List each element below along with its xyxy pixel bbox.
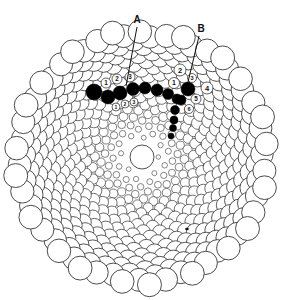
packed-circle bbox=[157, 124, 164, 131]
packed-circle bbox=[108, 144, 115, 151]
packed-circle bbox=[14, 93, 38, 117]
packed-circle bbox=[163, 180, 171, 188]
packed-circle bbox=[30, 71, 53, 94]
packed-circle bbox=[169, 158, 176, 165]
packed-circle bbox=[137, 273, 161, 297]
packed-circle bbox=[4, 164, 28, 188]
packed-circle bbox=[141, 135, 146, 140]
packed-circle bbox=[133, 176, 138, 181]
packed-circle bbox=[217, 236, 241, 260]
packed-circle bbox=[165, 148, 171, 154]
stray-mark bbox=[185, 228, 189, 230]
packed-circle bbox=[105, 162, 112, 169]
label-text: B bbox=[197, 23, 204, 34]
numbered-circle: 3 bbox=[125, 72, 135, 82]
packed-circle bbox=[105, 180, 114, 189]
packed-circle bbox=[152, 116, 160, 124]
packed-circle bbox=[123, 176, 129, 182]
packed-circle bbox=[180, 261, 204, 285]
packed-circle bbox=[160, 133, 166, 139]
packed-circle bbox=[114, 180, 121, 187]
numbered-circle: 5 bbox=[191, 94, 201, 104]
packed-circle bbox=[99, 127, 108, 136]
packed-circle bbox=[137, 184, 143, 190]
numbered-circle: 6 bbox=[185, 105, 194, 114]
packed-circle bbox=[150, 131, 156, 137]
packed-circle bbox=[110, 270, 134, 294]
packed-circle bbox=[126, 184, 133, 191]
packed-circle bbox=[135, 126, 141, 132]
packed-circle bbox=[154, 181, 161, 188]
packed-circle bbox=[110, 132, 117, 139]
highlighted-circle bbox=[170, 116, 178, 124]
highlighted-circle bbox=[171, 106, 180, 115]
circle-number: 1 bbox=[115, 104, 118, 110]
numbered-circle: 3 bbox=[130, 98, 138, 106]
circle-number: 1 bbox=[104, 79, 108, 86]
packed-circle bbox=[153, 189, 161, 197]
packed-circle bbox=[229, 67, 253, 91]
circle-number: 5 bbox=[194, 95, 198, 102]
circle-number: 3 bbox=[128, 73, 132, 80]
packed-circle bbox=[159, 112, 168, 121]
highlighted-circle bbox=[176, 95, 186, 105]
highlighted-circle bbox=[113, 86, 127, 100]
highlighted-circle bbox=[181, 82, 195, 96]
highlighted-circle bbox=[163, 89, 174, 100]
highlighted-circle bbox=[151, 84, 163, 96]
packed-circle bbox=[255, 132, 278, 155]
packed-circle bbox=[126, 167, 131, 172]
packed-circle bbox=[101, 21, 125, 45]
packed-circle bbox=[211, 46, 235, 70]
numbered-circle: 2 bbox=[121, 100, 129, 108]
packed-circle bbox=[61, 40, 85, 64]
packed-circle bbox=[68, 256, 92, 280]
packed-circle bbox=[138, 117, 146, 125]
numbered-circle: 2 bbox=[112, 74, 122, 84]
phyllotaxis-diagram: 123123123456 AB bbox=[0, 0, 285, 300]
packed-circle bbox=[171, 177, 179, 185]
packed-circle bbox=[119, 130, 126, 137]
packed-circle bbox=[113, 171, 120, 178]
packed-circle bbox=[144, 188, 151, 195]
circle-number: 3 bbox=[190, 75, 193, 81]
circle-number: 3 bbox=[133, 99, 136, 105]
highlighted-circle bbox=[127, 83, 140, 96]
packed-circle bbox=[116, 141, 122, 147]
packed-circle bbox=[19, 205, 43, 229]
highlighted-circle bbox=[139, 82, 151, 94]
circle-number: 6 bbox=[187, 106, 190, 112]
numbered-circle: 1 bbox=[169, 78, 180, 89]
highlighted-circle bbox=[86, 84, 102, 100]
packed-circle bbox=[156, 155, 161, 160]
packed-circle bbox=[174, 150, 181, 157]
packed-circle bbox=[118, 188, 126, 196]
numbered-circle: 1 bbox=[101, 78, 111, 88]
packed-circle bbox=[175, 163, 183, 171]
packed-circle bbox=[116, 164, 122, 170]
circle-number: 2 bbox=[124, 101, 127, 107]
packed-circle bbox=[251, 105, 275, 129]
packed-circle bbox=[168, 169, 175, 176]
packed-circle bbox=[104, 171, 112, 179]
packed-circle bbox=[253, 176, 277, 200]
packed-circle bbox=[162, 162, 168, 168]
label-text: A bbox=[133, 14, 140, 25]
packed-circle bbox=[236, 217, 260, 241]
packed-circle bbox=[102, 136, 110, 144]
numbered-circle: 1 bbox=[112, 103, 120, 111]
packed-circle bbox=[168, 140, 175, 147]
packed-circle bbox=[110, 155, 116, 161]
highlighted-circle bbox=[168, 133, 174, 139]
packed-circle bbox=[108, 123, 116, 131]
circle-number: 2 bbox=[115, 75, 119, 82]
packed-circle bbox=[101, 150, 109, 158]
numbered-circle: 4 bbox=[201, 82, 213, 94]
packed-circle bbox=[146, 123, 153, 130]
packed-circle bbox=[119, 151, 124, 156]
packed-circle bbox=[47, 239, 70, 262]
packed-circle bbox=[118, 121, 126, 129]
packed-circle bbox=[127, 122, 134, 129]
numbered-circle: 2 bbox=[174, 64, 186, 76]
packed-circle bbox=[158, 143, 163, 148]
